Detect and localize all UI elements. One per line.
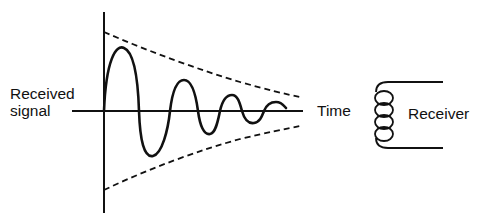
lower-envelope xyxy=(104,126,300,190)
y-axis-label-line2: signal xyxy=(10,102,51,119)
damped-signal-curve xyxy=(104,47,286,156)
receiver-label: Receiver xyxy=(408,105,469,122)
y-axis-label-line1: Received xyxy=(10,85,75,102)
damped-signal-diagram: Received signal Time Receiver xyxy=(0,0,486,222)
x-axis-label: Time xyxy=(317,102,351,119)
